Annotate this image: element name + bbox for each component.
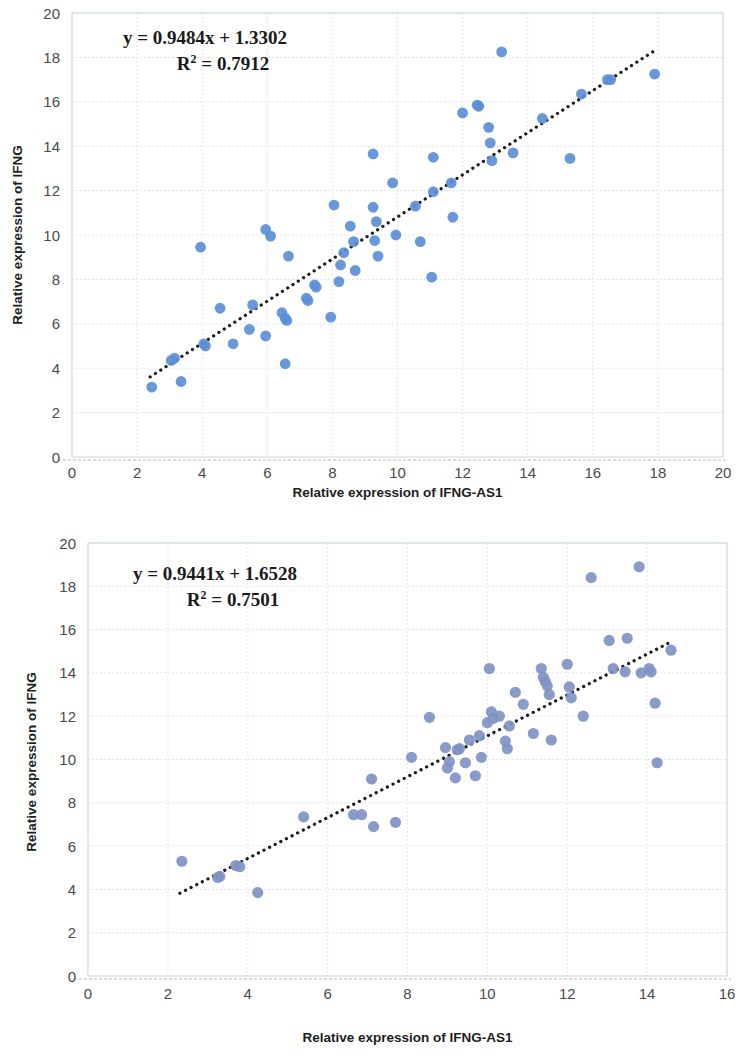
x-tick-label: 8 [403, 985, 411, 1002]
y-tick-label: 6 [68, 838, 76, 855]
data-point [415, 236, 426, 247]
y-tick-label: 4 [52, 360, 60, 377]
data-point [608, 663, 619, 674]
x-axis-title: Relative expression of IFNG-AS1 [292, 485, 503, 500]
data-point [518, 699, 529, 710]
data-point [578, 711, 589, 722]
data-point [504, 720, 515, 731]
data-point [528, 728, 539, 739]
data-point [428, 152, 439, 163]
data-point [444, 756, 455, 767]
y-tick-label: 8 [52, 271, 60, 288]
data-point [265, 231, 276, 242]
y-tick-label: 4 [68, 881, 76, 898]
y-tick-label: 16 [59, 621, 76, 638]
regression-equation: y = 0.9484x + 1.3302 [123, 27, 287, 48]
data-point [329, 200, 340, 211]
data-point [508, 147, 519, 158]
data-point [496, 46, 507, 57]
scatter-figure-top: 0246810121416182002468101214161820Relati… [0, 0, 746, 512]
data-point [335, 260, 346, 271]
data-point [544, 689, 555, 700]
y-tick-label: 0 [68, 968, 76, 985]
data-point [234, 861, 245, 872]
y-tick-label: 12 [59, 708, 76, 725]
data-point [537, 113, 548, 124]
y-tick-label: 10 [43, 227, 60, 244]
data-point [474, 730, 485, 741]
y-tick-label: 14 [43, 138, 60, 155]
data-point [562, 659, 573, 670]
x-tick-label: 6 [323, 985, 331, 1002]
data-point [368, 202, 379, 213]
data-point [146, 382, 157, 393]
data-point [410, 201, 421, 212]
y-tick-label: 2 [68, 924, 76, 941]
data-point [424, 712, 435, 723]
y-tick-label: 10 [59, 751, 76, 768]
x-tick-label: 12 [454, 464, 471, 481]
x-axis-title: Relative expression of IFNG-AS1 [302, 1030, 513, 1045]
data-point [428, 186, 439, 197]
data-point [228, 338, 239, 349]
x-tick-label: 12 [559, 985, 576, 1002]
y-tick-label: 12 [43, 182, 60, 199]
data-point [440, 742, 451, 753]
x-tick-label: 10 [479, 985, 496, 1002]
data-point [476, 752, 487, 763]
y-tick-label: 0 [52, 449, 60, 466]
data-point [665, 645, 676, 656]
scatter-chart-bottom: 024681012141602468101214161820Relative e… [0, 512, 746, 1056]
x-tick-label: 6 [263, 464, 271, 481]
data-point [565, 153, 576, 164]
data-point [390, 230, 401, 241]
y-tick-label: 6 [52, 315, 60, 332]
data-point [406, 752, 417, 763]
y-tick-label: 16 [43, 93, 60, 110]
data-point [457, 108, 468, 119]
data-point [169, 353, 180, 364]
data-point [176, 376, 187, 387]
data-points [146, 46, 660, 392]
data-point [566, 692, 577, 703]
data-point [510, 687, 521, 698]
data-point [214, 871, 225, 882]
data-point [473, 101, 484, 112]
data-point [345, 221, 356, 232]
data-point [634, 561, 645, 572]
y-tick-label: 2 [52, 404, 60, 421]
data-point [348, 236, 359, 247]
data-point [652, 757, 663, 768]
data-point [646, 666, 657, 677]
y-tick-label: 14 [59, 664, 76, 681]
data-point [373, 251, 384, 262]
x-tick-label: 20 [715, 464, 732, 481]
data-point [298, 811, 309, 822]
data-point [446, 177, 457, 188]
data-point [390, 817, 401, 828]
y-tick-label: 8 [68, 794, 76, 811]
data-point [502, 743, 513, 754]
y-tick-label: 20 [59, 535, 76, 552]
data-point [281, 315, 292, 326]
data-point [334, 276, 345, 287]
x-tick-label: 8 [328, 464, 336, 481]
data-point [311, 282, 322, 293]
x-tick-label: 2 [164, 985, 172, 1002]
data-point [325, 312, 336, 323]
data-point [280, 358, 291, 369]
data-point [546, 734, 557, 745]
y-tick-label: 18 [59, 578, 76, 595]
data-point [200, 341, 211, 352]
data-point [485, 137, 496, 148]
data-point [350, 265, 361, 276]
data-point [494, 711, 505, 722]
data-point [195, 242, 206, 253]
data-point [247, 300, 258, 311]
x-tick-label: 4 [244, 985, 252, 1002]
y-axis-title: Relative expression of IFNG [10, 145, 25, 324]
data-point [303, 295, 314, 306]
data-point [620, 666, 631, 677]
regression-equation: y = 0.9441x + 1.6528 [133, 563, 297, 584]
x-tick-label: 16 [584, 464, 601, 481]
